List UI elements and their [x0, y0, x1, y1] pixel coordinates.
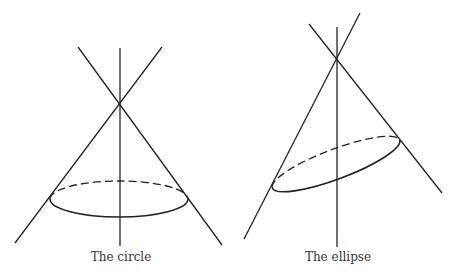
circle-figure [15, 47, 222, 246]
conic-sections-diagram [0, 0, 463, 279]
circle-caption: The circle [91, 250, 152, 264]
ellipse-section-back [267, 126, 400, 188]
ellipse-caption: The ellipse [305, 250, 371, 264]
circle-section-front [50, 199, 188, 217]
ellipse-section-front [272, 140, 405, 202]
cone-left-generator [15, 47, 162, 243]
circle-section-back [50, 181, 188, 199]
cone-left-generator [244, 13, 360, 239]
cone-right-generator [309, 24, 442, 193]
ellipse-figure [244, 13, 442, 247]
